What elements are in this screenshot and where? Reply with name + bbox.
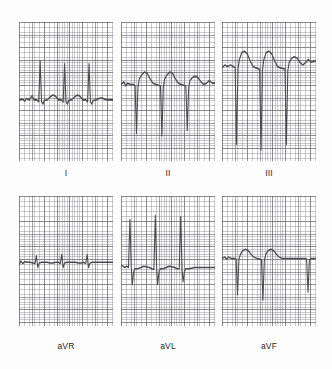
ecg-panel-lead-ii xyxy=(121,22,215,161)
ecg-trace-lead-avf xyxy=(222,196,316,326)
ecg-panel-lead-avl xyxy=(121,196,215,326)
ecg-grid-lead-avf xyxy=(222,196,316,326)
lead-label-iii: III xyxy=(222,168,316,179)
ecg-grid-lead-avr xyxy=(19,196,113,326)
ecg-waveform-polyline xyxy=(222,249,316,300)
ecg-trace-lead-ii xyxy=(121,22,215,161)
ecg-waveform-polyline xyxy=(121,216,215,285)
ecg-waveform-polyline xyxy=(19,255,113,268)
ecg-grid-lead-i xyxy=(19,22,113,161)
ecg-grid-lead-ii xyxy=(121,22,215,161)
ecg-figure: I II III aVR aVL xyxy=(0,0,332,369)
lead-label-avl: aVL xyxy=(121,341,215,352)
ecg-panel-lead-avf xyxy=(222,196,316,326)
ecg-panel-lead-i xyxy=(19,22,113,161)
lead-label-ii: II xyxy=(121,168,215,179)
ecg-trace-lead-i xyxy=(19,22,113,161)
ecg-panel-lead-avr xyxy=(19,196,113,326)
ecg-grid-lead-avl xyxy=(121,196,215,326)
lead-label-avr: aVR xyxy=(19,341,113,352)
ecg-trace-lead-avr xyxy=(19,196,113,326)
ecg-trace-lead-avl xyxy=(121,196,215,326)
ecg-waveform-polyline xyxy=(19,61,113,104)
lead-label-i: I xyxy=(19,168,113,179)
ecg-trace-lead-iii xyxy=(222,22,316,161)
ecg-grid-lead-iii xyxy=(222,22,316,161)
ecg-panel-lead-iii xyxy=(222,22,316,161)
ecg-waveform-polyline xyxy=(222,51,316,150)
ecg-waveform-polyline xyxy=(121,72,215,136)
lead-label-avf: aVF xyxy=(222,341,316,352)
